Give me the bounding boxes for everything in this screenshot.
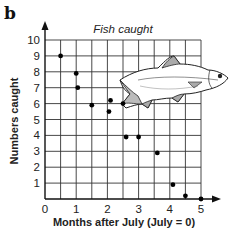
fish-illustration: [120, 56, 228, 108]
y-tick-label: 2: [34, 161, 40, 173]
y-tick-label: 7: [34, 82, 40, 94]
data-point: [108, 98, 113, 103]
data-point: [74, 71, 79, 76]
data-point: [75, 85, 80, 90]
x-tick-label: 4: [167, 203, 174, 215]
y-tick-label: 6: [34, 98, 40, 110]
data-point: [58, 54, 63, 59]
chart-title: Fish caught: [93, 23, 153, 35]
data-point: [155, 150, 160, 155]
y-tick-label: 1: [34, 177, 40, 189]
y-tick-label: 4: [34, 129, 41, 141]
x-tick-label: 3: [135, 203, 141, 215]
panel-label: b: [4, 3, 16, 23]
data-point: [124, 135, 129, 140]
data-point: [136, 135, 141, 140]
data-point: [199, 197, 204, 202]
y-tick-label: 9: [34, 50, 40, 62]
y-axis-arrow: [42, 21, 49, 30]
y-axis-label: Numbers caught: [8, 77, 20, 164]
data-point: [171, 182, 176, 187]
x-axis-label: Months after July (July = 0): [53, 216, 195, 228]
scatter-chart: b Fish caught 01234512345678910 Months a…: [0, 0, 230, 237]
x-tick-label: 2: [104, 203, 110, 215]
data-point: [107, 109, 112, 114]
x-tick-label: 0: [42, 203, 48, 215]
y-tick-label: 8: [34, 66, 40, 78]
data-point: [121, 101, 126, 106]
y-tick-label: 10: [27, 34, 40, 46]
y-tick-label: 3: [34, 145, 40, 157]
data-point: [89, 103, 94, 108]
axes: [42, 21, 222, 203]
data-point: [183, 193, 188, 198]
y-tick-label: 5: [34, 114, 40, 126]
x-axis-arrow: [212, 196, 221, 203]
x-tick-label: 1: [73, 203, 79, 215]
x-tick-label: 5: [198, 203, 204, 215]
